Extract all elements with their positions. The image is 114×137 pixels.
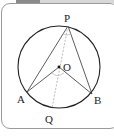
- label-q: Q: [45, 113, 53, 125]
- segment-oa: [27, 67, 59, 92]
- label-b: B: [94, 94, 101, 106]
- center-point-o: [58, 66, 61, 69]
- label-p: P: [64, 12, 70, 24]
- angle-mark-p: [63, 34, 71, 35]
- label-o: O: [63, 61, 71, 73]
- angle-mark-o: [52, 73, 64, 76]
- geometry-figure: P O A B Q: [0, 0, 114, 137]
- segment-pa: [27, 26, 68, 92]
- label-a: A: [17, 93, 25, 105]
